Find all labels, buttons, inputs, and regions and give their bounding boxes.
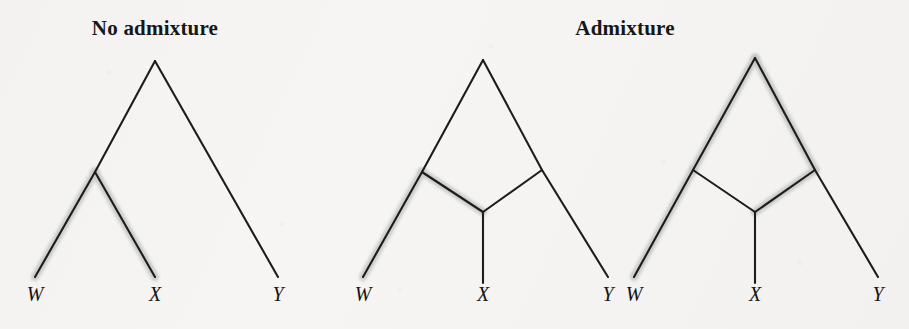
admixture-left-edge-right-node-to-Y	[542, 170, 608, 277]
leaf-label-no-admixture-x: X	[149, 283, 161, 306]
leaf-label-no-admixture-y: Y	[272, 283, 283, 306]
leaf-label-admixture-left-x: X	[477, 283, 489, 306]
admixture-right-edge-left-node-to-W	[634, 170, 693, 277]
admixture-right-edge-right-node-to-admix	[755, 170, 815, 212]
admixture-left-edge-left-node-to-admix	[422, 172, 483, 212]
panel-title-no-admixture: No admixture	[92, 16, 218, 41]
leaf-label-admixture-left-y: Y	[602, 283, 613, 306]
admixture-right-edge-root-to-right-node	[755, 58, 815, 170]
admixture-right-edge-right-node-to-Y	[815, 170, 878, 277]
admixture-figure: No admixtureAdmixture WXYWXYWXY	[0, 0, 909, 329]
admixture-left-edge-left-node-to-W	[363, 172, 422, 277]
admixture-left-edge-right-node-to-admix	[483, 170, 542, 212]
leaf-label-admixture-right-w: W	[626, 283, 643, 306]
no-admixture-edge-internal-to-W	[35, 172, 95, 277]
leaf-label-admixture-left-w: W	[355, 283, 372, 306]
tree-diagram-canvas	[0, 0, 909, 329]
admixture-left-edge-root-to-left-node	[422, 60, 483, 172]
leaf-label-no-admixture-w: W	[27, 283, 44, 306]
admixture-right-edge-left-node-to-admix	[693, 170, 755, 212]
admixture-right-edge-root-to-left-node	[693, 58, 755, 170]
leaf-label-admixture-right-x: X	[749, 283, 761, 306]
no-admixture-edge-internal-to-X	[95, 172, 155, 277]
admixture-left-edge-root-to-right-node	[483, 60, 542, 170]
leaf-label-admixture-right-y: Y	[872, 283, 883, 306]
no-admixture-edge-root-to-Y	[155, 61, 278, 277]
highlight-layer	[35, 58, 815, 283]
no-admixture-edge-root-to-internal	[95, 61, 155, 172]
panel-title-admixture-left: Admixture	[575, 16, 674, 41]
